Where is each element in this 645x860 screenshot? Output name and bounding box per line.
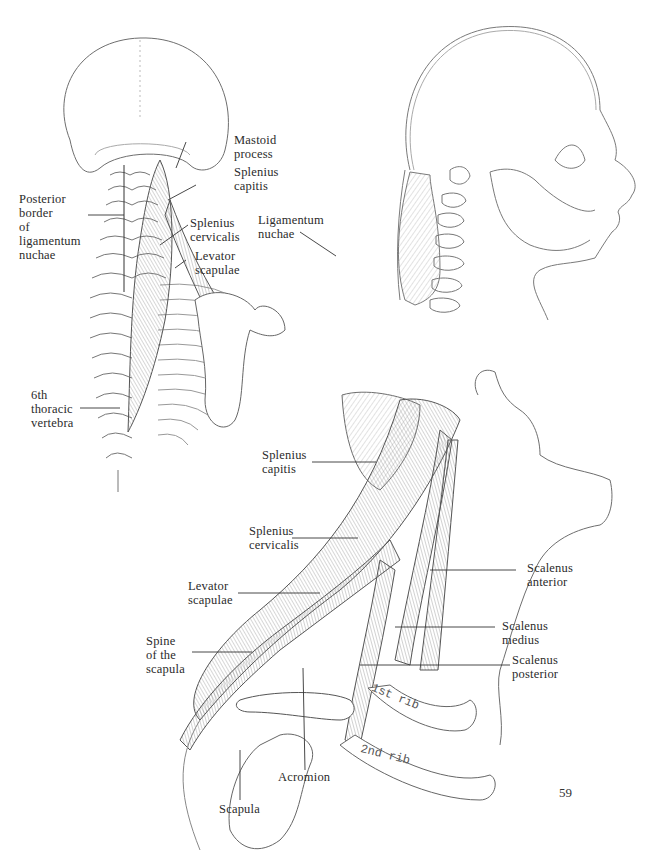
lateral-head-figure: [398, 27, 636, 320]
label-scapula: Scapula: [219, 802, 260, 816]
posterior-view-figure: [64, 38, 285, 492]
label-splenius-capitis-lateral: Splenius capitis: [262, 448, 307, 476]
label-scalenus-anterior: Scalenus anterior: [527, 561, 573, 589]
label-acromion: Acromion: [278, 770, 330, 784]
label-scalenus-posterior: Scalenus posterior: [512, 653, 558, 681]
label-spine-of-the-scapula: Spine of the scapula: [146, 634, 185, 676]
anatomy-illustration: [0, 0, 645, 860]
page-number: 59: [559, 785, 572, 801]
label-6th-thoracic-vertebra: 6th thoracic vertebra: [31, 388, 74, 430]
label-levator-scapulae-lateral: Levator scapulae: [188, 579, 233, 607]
label-splenius-cervicalis-posterior: Splenius cervicalis: [190, 216, 240, 244]
label-splenius-cervicalis-lateral: Splenius cervicalis: [249, 524, 299, 552]
label-posterior-border-ligamentum-nuchae: Posterior border of ligamentum nuchae: [19, 192, 81, 262]
label-ligamentum-nuchae: Ligamentum nuchae: [258, 213, 324, 241]
label-splenius-capitis-posterior: Splenius capitis: [234, 165, 279, 193]
label-levator-scapulae-posterior: Levator scapulae: [195, 249, 240, 277]
label-mastoid-process: Mastoid process: [234, 133, 276, 161]
lateral-neck-figure: [180, 370, 612, 850]
label-scalenus-medius: Scalenus medius: [502, 619, 548, 647]
